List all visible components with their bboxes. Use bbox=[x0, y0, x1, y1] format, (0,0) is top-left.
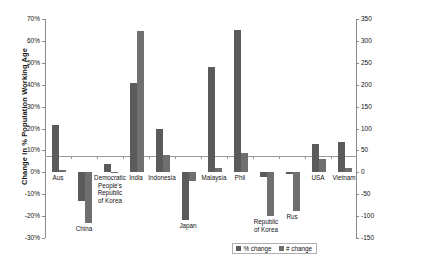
bar-num-change bbox=[59, 170, 66, 172]
right-tick-label: 50 bbox=[361, 146, 401, 153]
left-tick-mark bbox=[42, 63, 45, 64]
bar-group bbox=[156, 19, 171, 238]
right-tick-label: 0 bbox=[361, 168, 401, 175]
left-tick-label: -10% bbox=[0, 190, 40, 197]
bar-pct-change bbox=[182, 172, 189, 220]
left-tick-mark bbox=[42, 107, 45, 108]
right-tick-label: 200 bbox=[361, 81, 401, 88]
right-tick-label: 250 bbox=[361, 59, 401, 66]
bar-pct-change bbox=[130, 83, 137, 173]
bar-group bbox=[130, 19, 145, 238]
bar-pct-change bbox=[156, 129, 163, 173]
legend-label-pct: % change bbox=[244, 245, 272, 252]
chart-container: Change in % Population Working Age 70%60… bbox=[0, 0, 424, 266]
left-tick-label: 40% bbox=[0, 81, 40, 88]
left-tick-label: -20% bbox=[0, 212, 40, 219]
left-axis-line bbox=[45, 19, 46, 238]
left-tick-mark bbox=[42, 238, 45, 239]
bar-num-change bbox=[163, 155, 170, 173]
category-label: Aus bbox=[38, 174, 78, 182]
legend-label-num: # change bbox=[286, 245, 312, 252]
right-tick-label: 350 bbox=[361, 15, 401, 22]
category-tick-mark bbox=[279, 156, 280, 159]
bar-group bbox=[338, 19, 353, 238]
category-tick-mark bbox=[253, 156, 254, 159]
left-tick-label: 0% bbox=[0, 168, 40, 175]
left-tick-label: 50% bbox=[0, 59, 40, 66]
y-axis-title: Change in % Population Working Age bbox=[20, 27, 29, 207]
right-tick-mark bbox=[356, 216, 359, 217]
bar-pct-change bbox=[234, 30, 241, 172]
category-label: Japan bbox=[168, 222, 208, 230]
legend-item-num: # change bbox=[279, 245, 312, 252]
bar-pct-change bbox=[312, 144, 319, 172]
left-tick-label: 30% bbox=[0, 103, 40, 110]
num-swatch-icon bbox=[279, 246, 284, 251]
category-tick-mark bbox=[45, 156, 46, 159]
category-tick-mark bbox=[71, 156, 72, 159]
left-tick-label: 60% bbox=[0, 37, 40, 44]
right-tick-label: -100 bbox=[361, 212, 401, 219]
bar-pct-change bbox=[208, 67, 215, 172]
category-label: Rus bbox=[272, 213, 312, 221]
category-tick-mark bbox=[97, 156, 98, 159]
left-tick-label: -30% bbox=[0, 234, 40, 241]
left-tick-label: 10% bbox=[0, 146, 40, 153]
legend-item-pct: % change bbox=[236, 245, 272, 252]
category-label: Vietnam bbox=[324, 174, 364, 182]
right-tick-mark bbox=[356, 129, 359, 130]
bar-group bbox=[312, 19, 327, 238]
pct-swatch-icon bbox=[236, 246, 241, 251]
plot-area: 70%60%50%40%30%20%10%0%-10%-20%-30% 3503… bbox=[45, 19, 357, 238]
bar-num-change bbox=[215, 168, 222, 172]
bar-group bbox=[78, 19, 93, 238]
bar-group bbox=[182, 19, 197, 238]
right-tick-mark bbox=[356, 107, 359, 108]
bar-pct-change bbox=[286, 172, 293, 174]
bar-group bbox=[52, 19, 67, 238]
left-tick-label: 70% bbox=[0, 15, 40, 22]
left-tick-mark bbox=[42, 41, 45, 42]
right-tick-mark bbox=[356, 238, 359, 239]
bar-pct-change bbox=[52, 125, 59, 172]
chart-legend: % change # change bbox=[232, 243, 317, 254]
bar-group bbox=[234, 19, 249, 238]
right-tick-label: -50 bbox=[361, 190, 401, 197]
left-tick-mark bbox=[42, 85, 45, 86]
left-tick-mark bbox=[42, 172, 45, 173]
bar-group bbox=[260, 19, 275, 238]
category-tick-mark bbox=[149, 156, 150, 159]
right-tick-label: -150 bbox=[361, 234, 401, 241]
right-tick-label: 100 bbox=[361, 125, 401, 132]
category-tick-mark bbox=[201, 156, 202, 159]
left-tick-mark bbox=[42, 19, 45, 20]
bar-pct-change bbox=[260, 172, 267, 176]
right-tick-mark bbox=[356, 194, 359, 195]
right-tick-mark bbox=[356, 41, 359, 42]
right-tick-mark bbox=[356, 85, 359, 86]
category-tick-mark bbox=[175, 156, 176, 159]
bar-group bbox=[208, 19, 223, 238]
left-tick-mark bbox=[42, 194, 45, 195]
bar-num-change bbox=[111, 172, 118, 173]
right-tick-mark bbox=[356, 172, 359, 173]
bar-pct-change bbox=[338, 142, 345, 173]
bar-pct-change bbox=[78, 172, 85, 200]
left-tick-mark bbox=[42, 150, 45, 151]
category-tick-mark bbox=[227, 156, 228, 159]
category-label: Indonesia bbox=[142, 174, 182, 182]
bar-num-change bbox=[137, 31, 144, 172]
right-tick-mark bbox=[356, 150, 359, 151]
right-tick-mark bbox=[356, 19, 359, 20]
category-label: China bbox=[64, 225, 104, 233]
right-tick-mark bbox=[356, 63, 359, 64]
bar-group bbox=[104, 19, 119, 238]
category-tick-mark bbox=[305, 156, 306, 159]
bar-num-change bbox=[319, 159, 326, 172]
bar-num-change bbox=[241, 153, 248, 173]
bar-num-change bbox=[267, 172, 274, 216]
right-tick-label: 300 bbox=[361, 37, 401, 44]
bar-num-change bbox=[345, 168, 352, 172]
left-tick-label: 20% bbox=[0, 125, 40, 132]
category-label: Phil bbox=[220, 174, 260, 182]
